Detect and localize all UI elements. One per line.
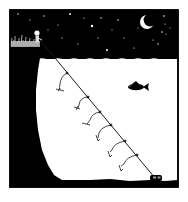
sinker-icon (150, 175, 162, 181)
comic-panel (0, 0, 188, 202)
